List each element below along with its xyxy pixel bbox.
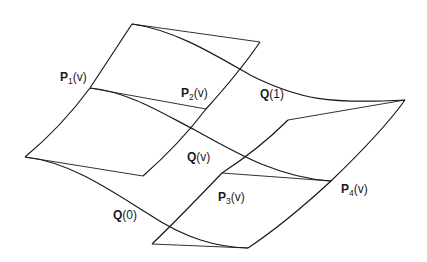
surface-diagram: P1(v) P2(v) Q(1) Q(v) Q(0) P3(v) P4(v) [0, 0, 427, 262]
left-patch-left-edge [25, 24, 132, 157]
label-qv: Q(v) [187, 150, 210, 164]
label-p4: P4(v) [341, 182, 368, 198]
q0-curve [25, 157, 248, 248]
right-patch-right-edge [248, 100, 405, 248]
label-p1: P1(v) [60, 70, 87, 86]
q-curves [25, 24, 405, 248]
label-q0: Q(0) [113, 208, 137, 222]
right-patch-left-edge [152, 120, 288, 244]
label-p2: P2(v) [181, 86, 208, 102]
right-patch-top-edge [288, 100, 405, 120]
left-patch [25, 24, 260, 176]
left-patch-top-edge [132, 24, 260, 42]
label-p3: P3(v) [218, 190, 245, 206]
qv-curve [90, 88, 331, 181]
label-q1: Q(1) [260, 87, 284, 101]
right-patch [152, 100, 405, 248]
